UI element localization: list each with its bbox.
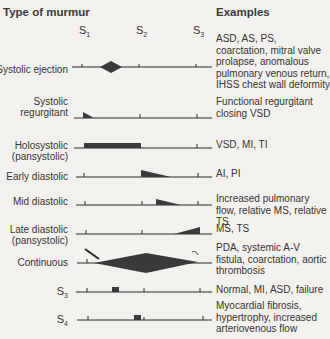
shape-s4 xyxy=(77,315,212,320)
murmur-diagram xyxy=(0,0,330,339)
shape-systolic-ejection xyxy=(72,61,212,73)
shape-s3 xyxy=(76,287,212,292)
shape-systolic-regurgitant xyxy=(74,112,212,118)
shape-holosystolic xyxy=(74,143,212,148)
shape-late-diastolic xyxy=(76,227,212,234)
shape-mid-diastolic xyxy=(76,199,212,205)
shape-continuous xyxy=(77,249,212,273)
shape-early-diastolic xyxy=(76,170,212,177)
